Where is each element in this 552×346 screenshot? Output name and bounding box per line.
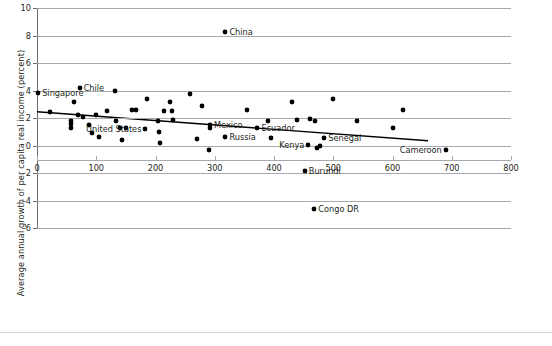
data-point <box>69 122 73 126</box>
data-point <box>158 141 162 145</box>
data-point <box>171 118 175 122</box>
data-point <box>156 119 160 123</box>
data-point <box>207 148 211 152</box>
x-axis-line <box>37 160 511 161</box>
caption-divider <box>0 332 552 333</box>
point-label-united-states: United States <box>86 124 141 134</box>
y-tick-label-6: 6 <box>26 58 31 68</box>
gridline-y--6 <box>37 228 511 229</box>
data-point-cameroon <box>444 148 448 152</box>
data-point <box>245 108 249 112</box>
y-tick-label-2: 2 <box>26 113 31 123</box>
x-tick-label-700: 700 <box>444 163 460 173</box>
y-tick-label-4: 4 <box>26 86 31 96</box>
data-point-china <box>223 30 227 34</box>
x-tick-100 <box>96 156 97 160</box>
y-tick-8 <box>33 36 37 37</box>
gridline-y-4 <box>37 91 511 92</box>
data-point <box>170 109 174 113</box>
point-label-china: China <box>229 27 252 37</box>
data-point <box>114 119 118 123</box>
gridline-y--2 <box>37 173 511 174</box>
data-point-singapore <box>36 91 40 95</box>
x-tick-label-100: 100 <box>88 163 104 173</box>
data-point <box>355 119 359 123</box>
point-label-kenya: Kenya <box>279 140 304 150</box>
scatter-plot-figure: Average annual growth of per capita real… <box>0 0 552 346</box>
point-label-chile: Chile <box>84 83 105 93</box>
y-tick--2 <box>33 173 37 174</box>
gridline-y-6 <box>37 63 511 64</box>
point-label-singapore: Singapore <box>42 88 83 98</box>
data-point <box>295 118 299 122</box>
y-tick-label-8: 8 <box>26 31 31 41</box>
x-tick-label-0: 0 <box>34 163 39 173</box>
data-point <box>157 130 161 134</box>
data-point <box>113 89 117 93</box>
x-tick-700 <box>452 156 453 160</box>
data-point-ecuador <box>255 126 259 130</box>
data-point <box>48 110 52 114</box>
data-point-russia <box>223 135 227 139</box>
data-point-united-states <box>143 127 147 131</box>
data-point <box>188 92 192 96</box>
x-tick-400 <box>274 156 275 160</box>
data-point <box>313 119 317 123</box>
x-tick-label-800: 800 <box>503 163 519 173</box>
x-tick-0 <box>37 156 38 160</box>
data-point <box>308 117 312 121</box>
point-label-russia: Russia <box>229 132 255 142</box>
point-label-burundi: Burundi <box>309 166 341 176</box>
point-label-cameroon: Cameroon <box>400 145 442 155</box>
x-tick-800 <box>511 156 512 160</box>
x-tick-600 <box>393 156 394 160</box>
data-point <box>162 109 166 113</box>
y-tick--6 <box>33 228 37 229</box>
data-point <box>76 113 80 117</box>
y-tick-label-10: 10 <box>21 3 31 13</box>
y-tick-6 <box>33 63 37 64</box>
x-tick-label-600: 600 <box>385 163 401 173</box>
data-point <box>72 100 76 104</box>
y-tick-label--2: –2 <box>22 168 31 178</box>
gridline-y-2 <box>37 118 511 119</box>
x-tick-200 <box>156 156 157 160</box>
y-tick-label--6: –6 <box>22 223 31 233</box>
gridline-y-8 <box>37 36 511 37</box>
point-label-mexico: Mexico <box>214 120 243 130</box>
data-point <box>331 97 335 101</box>
data-point-chile <box>78 86 82 90</box>
y-tick-10 <box>33 8 37 9</box>
y-tick-2 <box>33 118 37 119</box>
x-tick-500 <box>333 156 334 160</box>
data-point <box>391 126 395 130</box>
x-tick-300 <box>215 156 216 160</box>
data-point-mexico <box>208 123 212 127</box>
point-label-congo-dr: Congo DR <box>318 204 359 214</box>
data-point-senegal <box>322 136 326 140</box>
data-point <box>134 108 138 112</box>
data-point <box>97 135 101 139</box>
y-tick-label--4: –4 <box>22 196 31 206</box>
data-point <box>94 113 98 117</box>
data-point <box>195 137 199 141</box>
data-point <box>401 108 405 112</box>
x-tick-label-200: 200 <box>148 163 164 173</box>
data-point <box>269 136 273 140</box>
data-point <box>105 109 109 113</box>
y-tick-label-0: 0 <box>26 141 31 151</box>
point-label-ecuador: Ecuador <box>261 123 294 133</box>
gridline-y-10 <box>37 8 511 9</box>
data-point <box>81 115 85 119</box>
data-point <box>200 104 204 108</box>
data-point <box>168 100 172 104</box>
x-tick-label-400: 400 <box>266 163 282 173</box>
y-tick--4 <box>33 201 37 202</box>
data-point <box>290 100 294 104</box>
x-tick-label-300: 300 <box>207 163 223 173</box>
y-tick-0 <box>33 146 37 147</box>
data-point-burundi <box>303 169 307 173</box>
data-point <box>145 97 149 101</box>
point-label-senegal: Senegal <box>328 133 361 143</box>
gridline-y--4 <box>37 201 511 202</box>
